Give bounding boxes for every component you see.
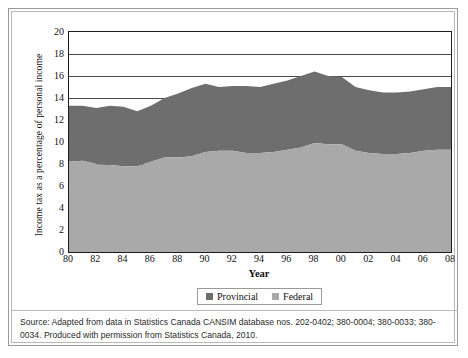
plot-area xyxy=(68,31,452,253)
y-tick-label: 20 xyxy=(38,26,64,37)
x-tick-label: 00 xyxy=(329,253,353,264)
x-tick-label: 88 xyxy=(165,253,189,264)
legend-swatch-icon xyxy=(272,293,279,300)
x-axis-title: Year xyxy=(68,268,450,279)
y-tick-label: 8 xyxy=(38,158,64,169)
x-tick-label: 02 xyxy=(356,253,380,264)
y-tick-label: 2 xyxy=(38,224,64,235)
x-tick-label: 80 xyxy=(56,253,80,264)
x-tick-label: 98 xyxy=(302,253,326,264)
legend-item-federal[interactable]: Federal xyxy=(272,291,313,302)
y-tick-label: 12 xyxy=(38,114,64,125)
source-note: Source: Adapted from data in Statistics … xyxy=(20,316,448,341)
x-tick-label: 92 xyxy=(220,253,244,264)
x-tick-label: 08 xyxy=(438,253,462,264)
x-tick-label: 82 xyxy=(83,253,107,264)
legend-item-provincial[interactable]: Provincial xyxy=(206,291,258,302)
chart-area: Income tax as a percentage of personal i… xyxy=(12,12,458,308)
y-axis-ticks: 02468101214161820 xyxy=(34,31,64,251)
x-tick-label: 04 xyxy=(383,253,407,264)
y-tick-label: 6 xyxy=(38,180,64,191)
figure-container: Income tax as a percentage of personal i… xyxy=(8,8,458,346)
legend-label: Federal xyxy=(283,291,313,302)
stacked-area-series xyxy=(69,32,451,252)
x-tick-label: 06 xyxy=(411,253,435,264)
legend-label: Provincial xyxy=(217,291,258,302)
x-tick-label: 94 xyxy=(247,253,271,264)
x-axis-ticks: 808284868890929496980002040608 xyxy=(68,253,450,269)
source-divider xyxy=(12,310,458,311)
chart-legend: ProvincialFederal xyxy=(197,288,322,305)
x-tick-label: 96 xyxy=(274,253,298,264)
y-tick-label: 10 xyxy=(38,136,64,147)
y-tick-label: 16 xyxy=(38,70,64,81)
y-tick-label: 4 xyxy=(38,202,64,213)
y-tick-label: 18 xyxy=(38,48,64,59)
area-provincial xyxy=(69,72,451,167)
legend-swatch-icon xyxy=(206,293,213,300)
x-tick-label: 90 xyxy=(192,253,216,264)
x-tick-label: 86 xyxy=(138,253,162,264)
y-tick-label: 14 xyxy=(38,92,64,103)
x-tick-label: 84 xyxy=(111,253,135,264)
figure-inner-border: Income tax as a percentage of personal i… xyxy=(11,11,455,343)
